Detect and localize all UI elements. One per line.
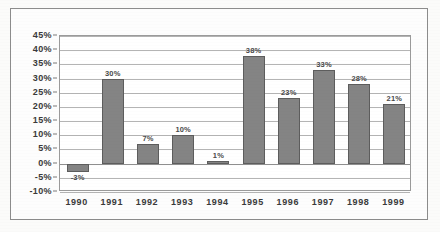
y-axis-tick-label: 15% [33,115,52,125]
y-axis-tick-label: -10% [29,186,52,196]
y-axis-tick-mark [53,77,57,78]
y-axis-tick-label: 0% [38,158,52,168]
gridline [60,36,410,37]
y-axis-tick-label: 35% [33,58,52,68]
y-axis: 45%40%35%30%25%20%15%10%5%0%-5%-10% [11,35,57,191]
bar-value-label: 28% [351,74,367,83]
y-axis-tick-label: 25% [33,87,52,97]
scanned-page: 45%40%35%30%25%20%15%10%5%0%-5%-10% -3%3… [0,0,440,232]
bar-value-label: 33% [316,60,332,69]
y-axis-tick-label: 10% [33,129,52,139]
bar [243,56,265,164]
y-axis-tick-label: 20% [33,101,52,111]
x-axis-tick-label: 1999 [382,197,404,207]
y-axis-tick-mark [53,35,57,36]
y-axis-tick-mark [53,120,57,121]
x-axis-tick-label: 1993 [171,197,193,207]
x-axis: 1990199119921993199419951996199719981999 [59,197,411,213]
bar-value-label: -3% [71,173,85,182]
chart-outer-frame: 45%40%35%30%25%20%15%10%5%0%-5%-10% -3%3… [10,8,428,220]
y-axis-tick-label: 40% [33,44,52,54]
gridline [60,50,410,51]
y-axis-tick-label: 45% [33,30,52,40]
bar-value-label: 23% [281,88,297,97]
y-axis-tick-mark [53,49,57,50]
bar [172,135,194,163]
x-axis-tick-label: 1996 [277,197,299,207]
y-axis-tick-mark [53,91,57,92]
bar-value-label: 21% [387,94,403,103]
bar-value-label: 1% [213,151,224,160]
y-axis-tick-mark [53,105,57,106]
x-axis-tick-label: 1997 [312,197,334,207]
zero-gridline [60,164,410,165]
bar [67,164,89,173]
x-axis-tick-label: 1991 [101,197,123,207]
y-axis-tick-label: -5% [35,172,52,182]
gridline [60,178,410,179]
bar [383,104,405,164]
bar-value-label: 7% [142,134,153,143]
y-axis-tick-label: 5% [38,143,52,153]
bar-value-label: 10% [175,125,191,134]
y-axis-tick-mark [53,63,57,64]
x-axis-tick-label: 1990 [65,197,87,207]
y-axis-tick-mark [53,191,57,192]
bar-value-label: 38% [246,46,262,55]
x-axis-tick-label: 1995 [241,197,263,207]
x-axis-tick-label: 1994 [206,197,228,207]
y-axis-tick-mark [53,162,57,163]
plot-area: -3%30%7%10%1%38%23%33%28%21% [59,35,411,191]
gridline [60,64,410,65]
bar [348,84,370,163]
bar [278,98,300,163]
bar [207,161,229,164]
bar [137,144,159,164]
y-axis-tick-mark [53,148,57,149]
x-axis-tick-label: 1992 [136,197,158,207]
x-axis-tick-label: 1998 [347,197,369,207]
y-axis-tick-label: 30% [33,73,52,83]
bar [313,70,335,164]
y-axis-tick-mark [53,134,57,135]
bar-value-label: 30% [105,69,121,78]
y-axis-tick-mark [53,176,57,177]
bar [102,79,124,164]
gridline [60,192,410,193]
